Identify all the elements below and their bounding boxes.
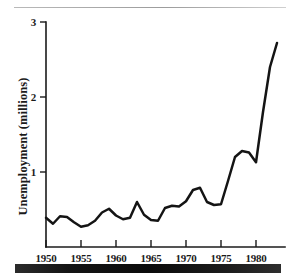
plot-area xyxy=(0,0,294,276)
unemployment-chart-figure: 3 2 1 1950 1955 1960 1965 1970 1975 1980… xyxy=(0,0,294,276)
page-edge-scan-band xyxy=(15,264,281,273)
x-tick-label-1950: 1950 xyxy=(35,252,56,264)
x-tick-label-1960: 1960 xyxy=(105,252,126,264)
x-tick-label-1955: 1955 xyxy=(70,252,91,264)
x-tick-marks xyxy=(46,240,256,247)
unemployment-series-line xyxy=(46,43,277,227)
x-tick-label-1965: 1965 xyxy=(140,252,161,264)
x-tick-label-1975: 1975 xyxy=(210,252,231,264)
y-tick-label-3: 3 xyxy=(24,16,36,28)
x-tick-label-1970: 1970 xyxy=(175,252,196,264)
y-tick-marks xyxy=(40,22,46,172)
y-axis-title: Unemployment (millions) xyxy=(16,62,31,232)
x-tick-label-1980: 1980 xyxy=(245,252,266,264)
